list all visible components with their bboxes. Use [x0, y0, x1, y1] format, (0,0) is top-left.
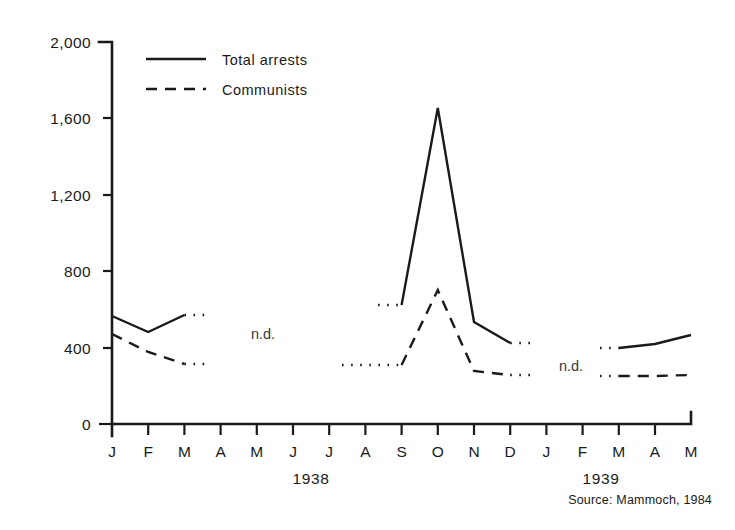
y-tick-label-1200: 1,200 — [50, 187, 91, 204]
total-arrests-segment-mar-may-1939 — [619, 335, 691, 348]
x-ticks — [148, 424, 655, 435]
no-data-label-1939: n.d. — [559, 358, 583, 374]
chart-figure: 2,000 1,600 1,200 800 400 0 — [0, 0, 735, 530]
x-tick-label-10: N — [468, 443, 479, 460]
x-tick-label-2: M — [178, 443, 191, 460]
y-tick-label-0: 0 — [82, 416, 91, 433]
y-tick-label-1600: 1,600 — [50, 110, 91, 127]
x-tick-label-4: M — [250, 443, 263, 460]
y-tick-label-400: 400 — [64, 340, 91, 357]
total-arrests-segment-sep-dec-1938 — [402, 108, 511, 343]
x-tick-label-9: O — [432, 443, 444, 460]
legend-label-communists: Communists — [222, 82, 308, 98]
x-tick-label-16: M — [685, 443, 698, 460]
x-tick-label-5: J — [289, 443, 297, 460]
chart-legend: Total arrests Communists — [146, 52, 308, 98]
x-tick-label-11: D — [505, 443, 516, 460]
x-tick-label-3: A — [215, 443, 226, 460]
y-tick-label-800: 800 — [64, 263, 91, 280]
total-arrests-segment-jan-mar-1938 — [112, 315, 184, 332]
arrests-line-chart: 2,000 1,600 1,200 800 400 0 — [0, 0, 735, 530]
no-data-annotations: n.d. n.d. — [251, 326, 583, 374]
x-axis — [112, 412, 691, 424]
x-tick-label-15: A — [650, 443, 661, 460]
x-tick-label-13: F — [578, 443, 587, 460]
x-tick-label-1: F — [143, 443, 152, 460]
y-ticks — [99, 118, 112, 424]
communists-segment-jan-mar-1938 — [112, 334, 184, 364]
x-tick-labels: J F M A M J J A S O N D J F M A M — [108, 443, 697, 460]
legend-label-total-arrests: Total arrests — [222, 52, 307, 68]
axis-group — [99, 42, 691, 436]
series-total-arrests — [112, 108, 691, 348]
year-labels: 1938 1939 — [293, 470, 620, 487]
x-tick-label-6: J — [325, 443, 333, 460]
source-caption: Source: Mammoch, 1984 — [568, 493, 712, 507]
x-tick-label-7: A — [360, 443, 371, 460]
x-tick-label-8: S — [396, 443, 406, 460]
year-label-1938: 1938 — [293, 470, 330, 487]
communists-segment-mar-may-1939 — [619, 375, 691, 376]
x-tick-label-12: J — [543, 443, 551, 460]
year-label-1939: 1939 — [583, 470, 620, 487]
x-tick-label-0: J — [108, 443, 116, 460]
x-tick-label-14: M — [612, 443, 625, 460]
y-tick-labels: 2,000 1,600 1,200 800 400 0 — [50, 34, 91, 433]
y-axis — [99, 42, 112, 424]
y-tick-label-2000: 2,000 — [50, 34, 91, 51]
no-data-label-1938: n.d. — [251, 326, 275, 342]
